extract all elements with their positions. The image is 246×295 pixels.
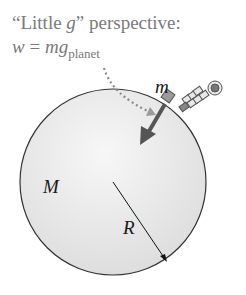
planet-mass-label: M [43,176,59,198]
astronaut-icon [179,81,222,112]
small-mass-label: m [155,76,169,98]
planet-diagram [0,0,246,295]
radius-label: R [123,217,135,239]
